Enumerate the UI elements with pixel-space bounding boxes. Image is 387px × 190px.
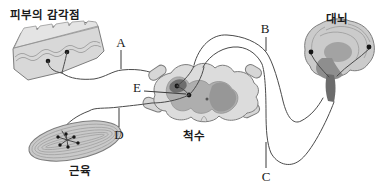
skin-illustration <box>13 21 104 80</box>
marker-e-label: E <box>133 80 141 95</box>
muscle-label: 근육 <box>69 165 91 177</box>
brain-synapse-dot-right <box>367 45 372 50</box>
end-plate-dot <box>58 143 61 146</box>
skin-label: 피부의 감각점 <box>10 8 79 21</box>
muscle-body <box>25 114 124 169</box>
marker-c-label: C <box>262 169 271 184</box>
end-plate-dot <box>76 141 79 144</box>
end-plate-dot <box>66 145 69 148</box>
end-plate-dot <box>72 135 75 138</box>
spinal-cord-label: 척수 <box>183 129 205 142</box>
marker-b-label: B <box>261 21 270 36</box>
brain-stem <box>326 74 336 102</box>
reflex-arc-diagram: 피부의 감각점 대뇌 척수 근육 A B C D E <box>0 0 387 190</box>
cord-central-canal-dot <box>206 98 209 101</box>
end-plate-dot <box>64 132 67 135</box>
diagram-canvas: 피부의 감각점 대뇌 척수 근육 A B C D E <box>0 0 387 190</box>
marker-a-label: A <box>116 35 126 50</box>
brain-label: 대뇌 <box>326 12 348 25</box>
end-plate-dot <box>56 135 59 138</box>
muscle-illustration <box>25 114 124 169</box>
brain-synapse-dot-left <box>309 50 314 55</box>
brain-illustration <box>305 19 375 102</box>
marker-d-label: D <box>114 127 123 142</box>
